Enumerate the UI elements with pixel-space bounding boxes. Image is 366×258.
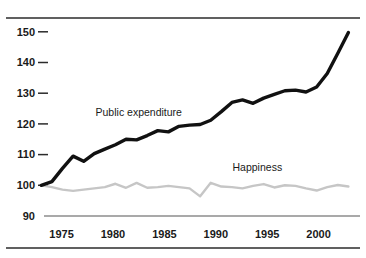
chart-background	[0, 0, 366, 258]
chart-figure: 150 140 130 120 110 100 90 1975 1980 198…	[0, 0, 366, 258]
y-tick-label-110: 110	[17, 148, 35, 160]
y-tick-label-100: 100	[17, 179, 35, 191]
line-chart: 150 140 130 120 110 100 90 1975 1980 198…	[0, 0, 366, 258]
y-tick-label-150: 150	[17, 26, 35, 38]
y-tick-label-130: 130	[17, 87, 35, 99]
y-tick-label-120: 120	[17, 118, 35, 130]
x-tick-label-1995: 1995	[255, 228, 279, 240]
x-tick-label-1980: 1980	[101, 228, 125, 240]
x-tick-label-1985: 1985	[152, 228, 176, 240]
series-label-happiness: Happiness	[233, 161, 283, 173]
series-label-public-expenditure: Public expenditure	[96, 106, 183, 118]
x-tick-label-1975: 1975	[49, 228, 73, 240]
y-tick-label-90: 90	[23, 210, 35, 222]
y-tick-label-140: 140	[17, 56, 35, 68]
x-tick-label-1990: 1990	[204, 228, 228, 240]
x-tick-label-2000: 2000	[306, 228, 330, 240]
